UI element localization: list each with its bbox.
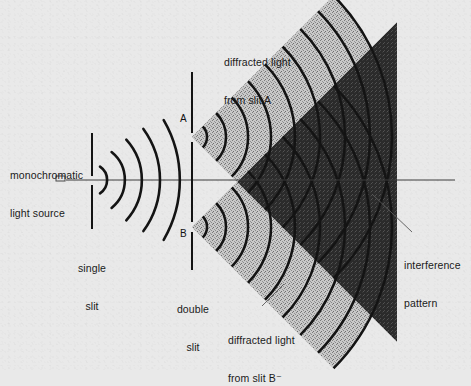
label-single-slit: single slit (64, 237, 120, 337)
label-interference-pattern: interference pattern (404, 234, 461, 334)
label-diffracted-a-line1: diffracted light (224, 56, 291, 69)
label-source-line1: monochromatic (10, 169, 83, 182)
label-slit-b: B (180, 228, 187, 239)
label-diffracted-light-a: diffracted light from slit A (224, 31, 291, 131)
label-slit-a: A (180, 113, 187, 124)
label-single-slit-line1: single (64, 262, 120, 275)
label-source-line2: light source (10, 207, 83, 220)
label-diffracted-a-line2: from slit A (224, 94, 291, 107)
label-interference-line2: pattern (404, 297, 461, 310)
label-double-slit-line1: double (164, 303, 222, 316)
label-diffracted-b-line2: from slit B⁻ (228, 372, 295, 385)
label-diffracted-light-b: diffracted light from slit B⁻ (228, 309, 295, 386)
label-single-slit-line2: slit (64, 300, 120, 313)
label-diffracted-b-line1: diffracted light (228, 334, 295, 347)
label-double-slit-line2: slit (164, 341, 222, 354)
label-double-slit: double slit (164, 278, 222, 378)
label-monochromatic-source: monochromatic light source (10, 144, 83, 244)
label-interference-line1: interference (404, 259, 461, 272)
